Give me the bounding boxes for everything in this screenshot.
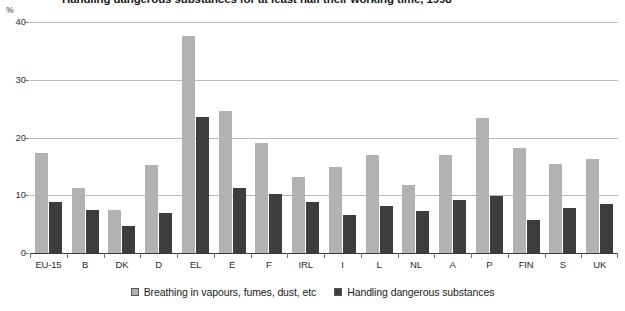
y-axis-tick-mark	[24, 195, 29, 196]
bar-group[interactable]	[471, 22, 508, 253]
bar[interactable]	[182, 36, 195, 253]
x-axis-tick-mark	[140, 253, 141, 258]
bar[interactable]	[402, 185, 415, 253]
bar[interactable]	[269, 194, 282, 253]
x-axis-tick-mark	[251, 253, 252, 258]
y-axis-tick: 10	[0, 195, 26, 196]
bar[interactable]	[453, 200, 466, 253]
bar[interactable]	[219, 111, 232, 253]
bar[interactable]	[108, 210, 121, 253]
bar-group[interactable]	[434, 22, 471, 253]
x-axis-tick-mark	[214, 253, 215, 258]
x-axis-tick-mark	[545, 253, 546, 258]
bar-chart: Handling dangerous substances for at lea…	[0, 0, 625, 311]
x-axis-tick-label: F	[251, 259, 288, 275]
x-axis-tick-label: EU-15	[30, 259, 67, 275]
chart-title: Handling dangerous substances for at lea…	[62, 0, 562, 5]
legend-item[interactable]: Handling dangerous substances	[334, 286, 494, 298]
x-axis-tick-label: I	[324, 259, 361, 275]
bar-group[interactable]	[287, 22, 324, 253]
bar[interactable]	[86, 210, 99, 253]
plot-area	[30, 22, 618, 253]
x-axis-tick-label: IRL	[287, 259, 324, 275]
x-axis-tick-mark	[617, 253, 618, 258]
bar[interactable]	[513, 148, 526, 253]
bar[interactable]	[196, 117, 209, 253]
bar[interactable]	[343, 215, 356, 253]
x-axis-tick-mark	[398, 253, 399, 258]
bar[interactable]	[476, 118, 489, 253]
x-axis-tick-label: UK	[581, 259, 618, 275]
bar[interactable]	[329, 167, 342, 253]
bar-group[interactable]	[398, 22, 435, 253]
bar[interactable]	[549, 164, 562, 253]
legend-label: Handling dangerous substances	[347, 286, 494, 298]
x-axis-tick-label: L	[361, 259, 398, 275]
y-axis-tick-label: 30	[4, 74, 26, 85]
bar-group[interactable]	[67, 22, 104, 253]
y-axis-tick: 20	[0, 138, 26, 139]
bar-group[interactable]	[177, 22, 214, 253]
bar-group[interactable]	[251, 22, 288, 253]
bar-group[interactable]	[30, 22, 67, 253]
x-axis-tick-mark	[361, 253, 362, 258]
x-axis-tick-mark	[30, 253, 31, 258]
bar-group[interactable]	[324, 22, 361, 253]
bar-group[interactable]	[581, 22, 618, 253]
legend-label: Breathing in vapours, fumes, dust, etc	[144, 286, 316, 298]
bar[interactable]	[35, 153, 48, 253]
x-axis-tick-label: P	[471, 259, 508, 275]
bar-group[interactable]	[508, 22, 545, 253]
bar[interactable]	[49, 202, 62, 253]
x-axis-tick-label: DK	[104, 259, 141, 275]
legend-item[interactable]: Breathing in vapours, fumes, dust, etc	[131, 286, 316, 298]
bar[interactable]	[122, 226, 135, 253]
x-axis-tick-label: E	[214, 259, 251, 275]
bar-group[interactable]	[104, 22, 141, 253]
x-axis-tick-mark	[324, 253, 325, 258]
y-axis-tick-mark	[24, 80, 29, 81]
bar[interactable]	[255, 143, 268, 253]
bar[interactable]	[490, 196, 503, 253]
legend-swatch-icon	[131, 288, 139, 296]
x-axis-tick-mark	[508, 253, 509, 258]
x-axis-tick-mark	[434, 253, 435, 258]
x-axis-tick-label: D	[140, 259, 177, 275]
x-axis-tick-mark	[581, 253, 582, 258]
bar-group[interactable]	[140, 22, 177, 253]
x-axis-tick-label: A	[434, 259, 471, 275]
y-axis-tick: 40	[0, 22, 26, 23]
bar[interactable]	[563, 208, 576, 253]
bar-group[interactable]	[214, 22, 251, 253]
bar[interactable]	[292, 177, 305, 253]
bar[interactable]	[439, 155, 452, 253]
y-axis-unit-label: %	[6, 5, 14, 15]
y-axis-tick: 0	[0, 253, 26, 254]
x-axis-tick-labels: EU-15BDKDELEFIRLILNLAPFINSUK	[30, 259, 618, 275]
y-axis-tick-mark	[24, 253, 29, 254]
legend-swatch-icon	[334, 288, 342, 296]
x-axis-tick-mark	[471, 253, 472, 258]
x-axis-tick-label: EL	[177, 259, 214, 275]
y-axis-tick-label: 20	[4, 132, 26, 143]
bar[interactable]	[416, 211, 429, 253]
bar[interactable]	[159, 213, 172, 253]
bar[interactable]	[366, 155, 379, 253]
bar[interactable]	[586, 159, 599, 253]
bar[interactable]	[306, 202, 319, 253]
bar-group[interactable]	[361, 22, 398, 253]
bar[interactable]	[233, 188, 246, 253]
x-axis-tick-mark	[287, 253, 288, 258]
bar[interactable]	[527, 220, 540, 253]
bar[interactable]	[72, 188, 85, 253]
y-axis-tick-mark	[24, 22, 29, 23]
bar-group[interactable]	[545, 22, 582, 253]
bar[interactable]	[380, 206, 393, 253]
x-axis-tick-label: FIN	[508, 259, 545, 275]
x-axis-tick-label: B	[67, 259, 104, 275]
bar-groups	[30, 22, 618, 253]
bar[interactable]	[600, 204, 613, 253]
bar[interactable]	[145, 165, 158, 253]
y-axis-tick-mark	[24, 138, 29, 139]
x-axis-tick-mark	[177, 253, 178, 258]
